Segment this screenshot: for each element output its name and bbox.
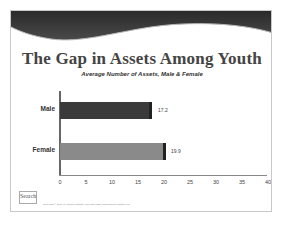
category-label-female: Female [11, 146, 55, 153]
x-tick-30: 30 [209, 179, 223, 185]
bar-male [60, 102, 149, 119]
x-tick-0: 0 [53, 179, 67, 185]
category-label-male: Male [11, 105, 55, 112]
x-tick-25: 25 [183, 179, 197, 185]
copyright-text: Copyright © 2001 by Search Institute, 80… [43, 203, 129, 206]
x-tick-40: 40 [261, 179, 272, 185]
x-tick-5: 5 [79, 179, 93, 185]
x-tick-35: 35 [235, 179, 249, 185]
bar-female-end [163, 143, 166, 160]
x-tick-15: 15 [131, 179, 145, 185]
bar-female [60, 143, 163, 160]
bar-male-end [149, 102, 152, 119]
value-label-male: 17.2 [158, 107, 168, 113]
value-label-female: 19.9 [171, 148, 181, 154]
x-tick-10: 10 [105, 179, 119, 185]
x-tick-20: 20 [157, 179, 171, 185]
bar-chart: Male 17.2 Female 19.9 0 5 10 15 20 25 30… [11, 11, 272, 212]
slide: The Gap in Assets Among Youth Average Nu… [10, 10, 272, 212]
search-institute-logo: Search [19, 191, 37, 204]
x-axis [59, 175, 267, 176]
